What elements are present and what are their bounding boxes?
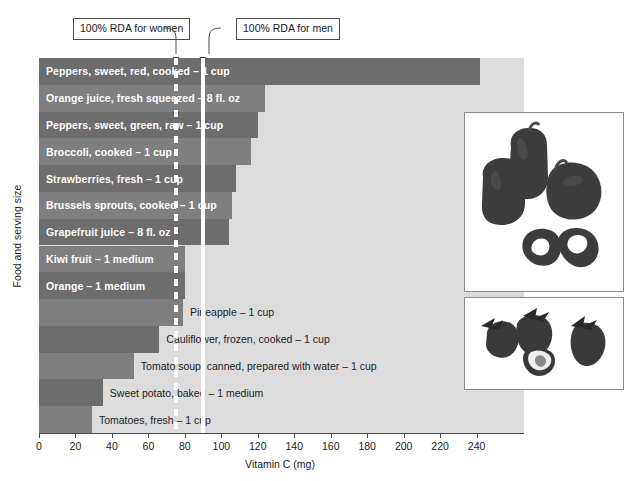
bar-row: Pineapple – 1 cup (39, 299, 524, 326)
bar-row: Grapefruit juice – 8 fl. oz (39, 219, 524, 246)
plot-area: Peppers, sweet, red, cooked – 1 cupOrang… (39, 58, 524, 433)
bar-row: Kiwi fruit – 1 medium (39, 246, 524, 273)
bar-label: Peppers, sweet, green, raw – 1 cup (46, 119, 223, 131)
bar (39, 406, 92, 433)
bar-label: Tomatoes, fresh – 1 cup (99, 414, 211, 426)
bar-row: Orange juice, fresh squeezed – 8 fl. oz (39, 85, 524, 112)
rda-women-guideline (174, 58, 178, 433)
x-tick-label: 160 (322, 440, 340, 452)
x-tick-label: 200 (395, 440, 413, 452)
x-tick-label: 100 (213, 440, 231, 452)
bar-row: Tomato soup, canned, prepared with water… (39, 353, 524, 380)
bar-label: Sweet potato, baked – 1 medium (110, 387, 264, 399)
bar-row: Cauliflower, frozen, cooked – 1 cup (39, 326, 524, 353)
bar-row: Tomatoes, fresh – 1 cup (39, 406, 524, 433)
bar (39, 353, 134, 380)
bar (39, 326, 159, 353)
bar-label: Cauliflower, frozen, cooked – 1 cup (166, 333, 329, 345)
x-tick-label: 220 (431, 440, 449, 452)
bar-label: Orange juice, fresh squeezed – 8 fl. oz (46, 92, 240, 104)
x-tick (477, 433, 478, 438)
bar-row: Orange – 1 medium (39, 272, 524, 299)
x-tick (258, 433, 259, 438)
rda-men-guideline (201, 58, 205, 433)
x-axis-title: Vitamin C (mg) (0, 458, 560, 470)
x-tick (75, 433, 76, 438)
x-tick-label: 20 (70, 440, 82, 452)
bar-label: Strawberries, fresh – 1 cup (46, 173, 183, 185)
bell-peppers-photo (464, 112, 624, 292)
bar (39, 379, 103, 406)
bar-label: Orange – 1 medium (46, 280, 145, 292)
bar-label: Grapefruit juice – 8 fl. oz (46, 226, 171, 238)
bar-row: Sweet potato, baked – 1 medium (39, 379, 524, 406)
x-tick (294, 433, 295, 438)
bar-row: Broccoli, cooked – 1 cup (39, 138, 524, 165)
strawberries-photo (464, 297, 624, 390)
x-tick (367, 433, 368, 438)
x-tick-label: 40 (106, 440, 118, 452)
x-tick (185, 433, 186, 438)
x-tick-label: 60 (143, 440, 155, 452)
x-tick-label: 140 (285, 440, 303, 452)
bar-row: Strawberries, fresh – 1 cup (39, 165, 524, 192)
y-axis-title: Food and serving size (11, 141, 23, 331)
callout-rda-men: 100% RDA for men (236, 18, 340, 40)
x-tick (148, 433, 149, 438)
bar-label: Brussels sprouts, cooked – 1 cup (46, 199, 217, 211)
x-tick (331, 433, 332, 438)
vitamin-c-chart: 100% RDA for women 100% RDA for men Pepp… (0, 0, 636, 481)
bar-label: Kiwi fruit – 1 medium (46, 253, 154, 265)
bar-row: Peppers, sweet, red, cooked – 1 cup (39, 58, 524, 85)
x-tick (112, 433, 113, 438)
bar-row: Peppers, sweet, green, raw – 1 cup (39, 112, 524, 139)
x-tick-label: 80 (179, 440, 191, 452)
x-tick (221, 433, 222, 438)
x-tick-label: 120 (249, 440, 267, 452)
x-tick-label: 180 (358, 440, 376, 452)
bar (39, 299, 183, 326)
x-tick (39, 433, 40, 438)
x-tick-label: 0 (36, 440, 42, 452)
x-tick-label: 240 (468, 440, 486, 452)
bar-row: Brussels sprouts, cooked – 1 cup (39, 192, 524, 219)
x-tick (440, 433, 441, 438)
bar-label: Broccoli, cooked – 1 cup (46, 146, 172, 158)
x-tick (404, 433, 405, 438)
